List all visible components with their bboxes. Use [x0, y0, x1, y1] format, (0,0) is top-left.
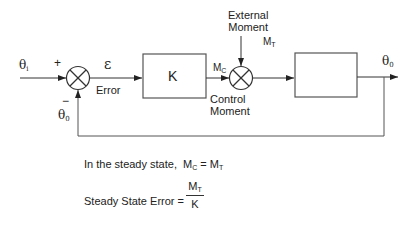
fraction-numerator: MT: [186, 180, 204, 193]
steady-state-error-label: Steady State Error =: [84, 195, 184, 207]
feedback-label: θ0: [58, 109, 70, 125]
minus-sign: −: [62, 95, 69, 107]
fraction-bar: [186, 195, 204, 196]
steady-state-error-fraction: MT K: [186, 180, 204, 210]
external-moment-label: External Moment: [228, 9, 268, 33]
plus-sign: +: [54, 57, 61, 69]
steady-state-equation: In the steady state, MC = MT: [84, 158, 223, 171]
summing-junction-1: [67, 67, 90, 90]
control-moment-label: Control Moment: [210, 93, 250, 117]
controller-label: K: [168, 70, 177, 82]
control-signal-label: MC: [213, 62, 226, 77]
fraction-denominator: K: [186, 198, 204, 210]
plant-block: [295, 53, 357, 97]
summing-junction-2: [230, 67, 253, 90]
output-label: θ0: [382, 55, 394, 71]
disturbance-signal-label: MT: [263, 36, 276, 51]
error-symbol: ε: [104, 58, 111, 70]
error-label: Error: [96, 84, 120, 96]
input-label: θi: [19, 59, 28, 75]
